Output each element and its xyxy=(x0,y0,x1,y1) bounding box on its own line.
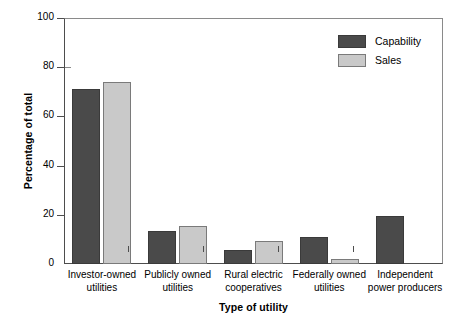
y-tick-label: 100 xyxy=(37,11,54,23)
bar-capability-3 xyxy=(300,237,328,264)
y-tick-mark xyxy=(57,18,64,19)
y-tick-mark xyxy=(57,215,64,216)
y-tick-mark xyxy=(57,166,64,167)
bar-sales-3 xyxy=(331,259,359,264)
bar-capability-1 xyxy=(148,231,176,264)
bar-capability-2 xyxy=(224,250,252,264)
x-tick xyxy=(128,246,129,252)
y-tick-label: 80 xyxy=(43,60,54,72)
legend-swatch-capability-icon xyxy=(338,35,366,48)
x-tick xyxy=(203,246,204,252)
y-tick-label: 60 xyxy=(43,109,54,121)
y-axis-title: Percentage of total xyxy=(22,61,34,221)
x-tick xyxy=(353,246,354,252)
legend-label-sales: Sales xyxy=(375,54,401,66)
y-tick-mark xyxy=(57,116,64,117)
legend-swatch-sales-icon xyxy=(338,54,366,67)
bar-chart-figure: Percentage of total 100 80 60 40 20 0 xyxy=(0,0,467,325)
x-category-label-4: Independent power producers xyxy=(350,269,460,294)
x-tick xyxy=(278,246,279,252)
y-tick-label: 40 xyxy=(43,159,54,171)
y-tick-mark xyxy=(57,67,64,68)
legend-label-capability: Capability xyxy=(375,35,421,47)
bar-sales-1 xyxy=(179,226,207,264)
bar-sales-2 xyxy=(255,241,283,264)
y-tick-label: 20 xyxy=(43,208,54,220)
legend: Capability Sales xyxy=(338,33,421,71)
bar-sales-0 xyxy=(103,82,131,264)
legend-item-capability: Capability xyxy=(338,33,421,49)
x-axis-title: Type of utility xyxy=(64,301,443,313)
bar-capability-4 xyxy=(376,216,404,264)
bar-capability-0 xyxy=(72,89,100,264)
y-tick-label: 0 xyxy=(48,257,54,269)
legend-item-sales: Sales xyxy=(338,52,421,68)
